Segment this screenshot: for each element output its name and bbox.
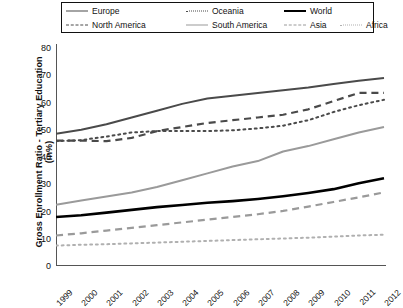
legend-line-swatch-icon — [186, 20, 208, 30]
series-line-europe — [56, 78, 384, 134]
legend-item-oceania[interactable]: Oceania — [186, 4, 244, 18]
legend-item-world[interactable]: World — [284, 4, 332, 18]
y-tick-label: 0 — [46, 261, 51, 271]
legend-line-swatch-icon — [66, 6, 88, 16]
legend-item-asia[interactable]: Asia — [284, 18, 327, 32]
x-tick-label: 2007 — [256, 287, 276, 307]
plot-area: 0102030405060708019992000200120022003200… — [56, 44, 386, 266]
legend-item-north-america[interactable]: North America — [66, 18, 146, 32]
legend-item-label: Europe — [92, 7, 119, 16]
legend-item-label: Africa — [366, 21, 388, 30]
legend-item-label: North America — [92, 21, 146, 30]
legend-item-label: South America — [212, 21, 267, 30]
x-tick-label: 2005 — [206, 287, 226, 307]
x-tick-label: 2009 — [306, 287, 326, 307]
legend-line-swatch-icon — [66, 20, 88, 30]
x-tick-label: 2003 — [155, 287, 175, 307]
legend-row-bottom: North AmericaSouth AmericaAsiaAfrica — [62, 18, 373, 32]
legend-line-swatch-icon — [186, 6, 208, 16]
series-line-oceania — [56, 100, 384, 141]
legend-item-label: Asia — [310, 21, 327, 30]
series-line-africa — [56, 235, 384, 246]
x-tick-label: 2010 — [332, 287, 352, 307]
y-tick-label: 10 — [41, 234, 51, 244]
legend-line-swatch-icon — [284, 20, 306, 30]
legend-item-label: Oceania — [212, 7, 244, 16]
y-tick-label: 80 — [41, 43, 51, 53]
x-tick-label: 2012 — [382, 287, 402, 307]
series-line-north-america — [56, 93, 384, 141]
y-tick-label: 20 — [41, 207, 51, 217]
chart-legend: EuropeOceaniaWorld North AmericaSouth Am… — [61, 2, 374, 33]
y-tick-label: 50 — [41, 125, 51, 135]
x-tick-label: 2008 — [281, 287, 301, 307]
y-tick-label: 60 — [41, 98, 51, 108]
x-tick-label: 1999 — [54, 287, 74, 307]
legend-line-swatch-icon — [284, 6, 306, 16]
x-tick-label: 2000 — [79, 287, 99, 307]
legend-item-label: World — [310, 7, 332, 16]
legend-item-europe[interactable]: Europe — [66, 4, 119, 18]
y-tick-label: 70 — [41, 70, 51, 80]
y-tick-label: 40 — [41, 152, 51, 162]
legend-line-swatch-icon — [340, 20, 362, 30]
x-tick-label: 2006 — [231, 287, 251, 307]
series-line-south-america — [56, 127, 384, 205]
x-tick-label: 2001 — [105, 287, 125, 307]
x-tick-label: 2004 — [180, 287, 200, 307]
chart-canvas — [56, 44, 386, 266]
legend-item-africa[interactable]: Africa — [340, 18, 388, 32]
x-tick-label: 2002 — [130, 287, 150, 307]
legend-row-top: EuropeOceaniaWorld — [62, 4, 373, 18]
y-tick-label: 30 — [41, 179, 51, 189]
x-tick-label: 2011 — [357, 287, 377, 307]
legend-item-south-america[interactable]: South America — [186, 18, 267, 32]
